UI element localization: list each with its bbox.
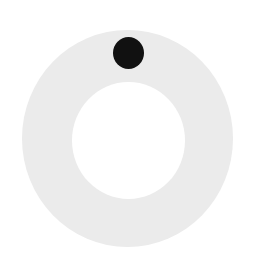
ring-center-hole [72,82,185,199]
figure-canvas [0,0,253,269]
marker-dot [113,37,144,69]
